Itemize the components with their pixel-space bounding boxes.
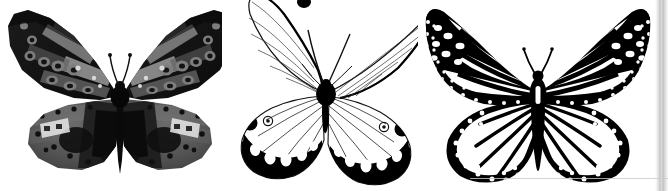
- figure-3-thorax-white-marking: [536, 86, 541, 104]
- figure-monarch-butterfly-illustration: [418, 0, 658, 191]
- figure-1-head: [115, 81, 125, 91]
- figure-line-drawing-glasswing-butterfly: [222, 0, 430, 191]
- butterfly-plate: [0, 0, 668, 191]
- scan-edge-line: [470, 178, 668, 179]
- scan-edge-strip: [655, 0, 668, 191]
- figure-grayscale-photograph-butterfly: [0, 0, 236, 191]
